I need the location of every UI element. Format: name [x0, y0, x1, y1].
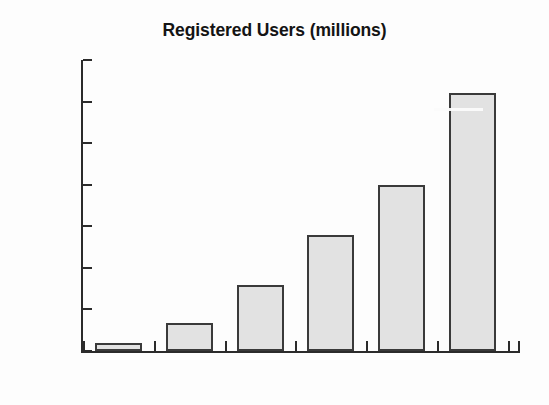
chart-title: Registered Users (millions) — [0, 20, 549, 41]
x-axis-tick — [437, 341, 439, 352]
plot-area: 020406080100120140 199920002001200220032… — [81, 60, 520, 351]
x-axis-tick — [225, 341, 227, 352]
x-axis-tick — [295, 341, 297, 352]
y-axis-tick — [83, 308, 92, 310]
y-axis-tick — [83, 142, 92, 144]
y-axis-tick — [83, 267, 92, 269]
x-axis-line — [81, 351, 520, 353]
bar — [237, 285, 284, 352]
scan-artifact-streak — [434, 108, 483, 111]
bar-chart: Registered Users (millions) 020406080100… — [0, 0, 549, 405]
x-axis-end-cap — [518, 341, 520, 352]
x-axis-tick — [154, 341, 156, 352]
y-axis-tick — [83, 59, 92, 61]
bar — [166, 323, 213, 351]
x-axis-tick — [508, 341, 510, 352]
bar — [95, 343, 142, 351]
bar — [378, 185, 425, 351]
y-axis-tick — [83, 101, 92, 103]
x-axis-tick — [83, 341, 85, 352]
y-axis-tick — [83, 184, 92, 186]
x-axis-tick — [366, 341, 368, 352]
bar — [307, 235, 354, 351]
y-axis-tick — [83, 225, 92, 227]
bar — [449, 93, 496, 351]
